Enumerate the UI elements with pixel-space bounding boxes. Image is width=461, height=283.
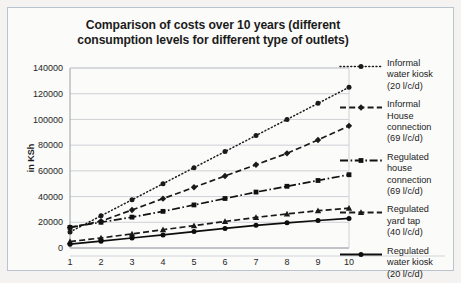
x-tick-label: 7 xyxy=(253,257,258,267)
y-tick-label: 60000 xyxy=(38,166,63,176)
legend-item[interactable]: Informal House connection (69 l/c/d) xyxy=(387,99,459,145)
series-line xyxy=(70,208,349,241)
data-point-marker xyxy=(254,223,259,228)
y-tick-label: 120000 xyxy=(33,89,63,99)
legend-item[interactable]: Regulated water kiosk (20 l/c/d) xyxy=(387,246,459,280)
chart-legend: Informal water kiosk (20 l/c/d)Informal … xyxy=(387,58,459,283)
data-point-marker xyxy=(222,173,228,179)
x-tick-label: 9 xyxy=(315,257,320,267)
data-series xyxy=(67,123,352,231)
data-point-marker xyxy=(68,225,73,230)
x-tick-label: 6 xyxy=(222,257,227,267)
x-tick-label: 3 xyxy=(129,257,134,267)
data-point-marker xyxy=(130,235,135,240)
y-tick-label: 20000 xyxy=(38,217,63,227)
data-point-marker xyxy=(315,137,321,143)
legend-item[interactable]: Regulated yard tap (40 l/c/d) xyxy=(387,204,459,238)
data-point-marker xyxy=(254,133,259,138)
data-point-marker xyxy=(284,150,290,156)
data-point-marker xyxy=(130,197,135,202)
data-point-marker xyxy=(192,165,197,170)
data-point-marker xyxy=(130,215,135,220)
y-tick-label: 140000 xyxy=(33,63,63,73)
legend-swatch-diamond-icon xyxy=(339,103,383,112)
y-tick-label: 80000 xyxy=(38,140,63,150)
x-tick-label: 4 xyxy=(160,257,165,267)
series-line xyxy=(70,87,349,232)
data-point-marker xyxy=(223,149,228,154)
y-tick-label: 0 xyxy=(58,243,63,253)
legend-swatch-triangle-icon xyxy=(339,208,383,217)
data-point-marker xyxy=(192,229,197,234)
x-tick-label: 2 xyxy=(98,257,103,267)
data-point-marker xyxy=(223,196,228,201)
chart-card: Comparison of costs over 10 years (diffe… xyxy=(7,7,454,271)
data-point-marker xyxy=(346,123,352,129)
data-point-marker xyxy=(285,184,290,189)
legend-label: Regulated water kiosk (20 l/c/d) xyxy=(387,246,459,280)
data-point-marker xyxy=(359,252,364,257)
y-tick-label: 100000 xyxy=(33,115,63,125)
data-point-marker xyxy=(358,105,364,111)
data-point-marker xyxy=(68,242,73,247)
legend-label: Informal water kiosk (20 l/c/d) xyxy=(387,58,459,92)
x-axis-tick-labels: 12345678910 xyxy=(67,257,354,267)
data-point-marker xyxy=(161,181,166,186)
x-tick-label: 1 xyxy=(67,257,72,267)
data-point-marker xyxy=(161,232,166,237)
series-line xyxy=(70,175,349,228)
data-point-marker xyxy=(359,64,364,69)
data-point-marker xyxy=(316,178,321,183)
data-point-marker xyxy=(253,161,259,167)
data-series xyxy=(67,205,352,244)
data-point-marker xyxy=(285,117,290,122)
legend-label: Regulated yard tap (40 l/c/d) xyxy=(387,204,459,238)
x-tick-label: 5 xyxy=(191,257,196,267)
legend-item[interactable]: Informal water kiosk (20 l/c/d) xyxy=(387,58,459,92)
y-axis-title: in KSh xyxy=(26,144,36,173)
data-point-marker xyxy=(347,172,352,177)
legend-label: Regulated house connection (69 l/c/d) xyxy=(387,152,459,198)
data-point-marker xyxy=(316,218,321,223)
data-point-marker xyxy=(129,207,135,213)
data-point-marker xyxy=(192,203,197,208)
data-point-marker xyxy=(191,184,197,190)
data-point-marker xyxy=(99,239,104,244)
data-point-marker xyxy=(285,220,290,225)
y-tick-label: 40000 xyxy=(38,192,63,202)
legend-swatch-circle-icon xyxy=(339,250,383,259)
legend-item[interactable]: Regulated house connection (69 l/c/d) xyxy=(387,152,459,198)
legend-swatch-circle-icon xyxy=(339,62,383,71)
data-point-marker xyxy=(161,209,166,214)
legend-label: Informal House connection (69 l/c/d) xyxy=(387,99,459,145)
data-point-marker xyxy=(359,158,364,163)
data-point-marker xyxy=(316,101,321,106)
legend-swatch-square-icon xyxy=(339,156,383,165)
data-point-marker xyxy=(99,220,104,225)
data-point-marker xyxy=(254,190,259,195)
data-point-marker xyxy=(347,85,352,90)
x-tick-label: 8 xyxy=(284,257,289,267)
series-line xyxy=(70,126,349,228)
data-point-marker xyxy=(99,213,104,218)
data-point-marker xyxy=(223,226,228,231)
y-axis-tick-labels: 020000400006000080000100000120000140000 xyxy=(33,63,63,253)
